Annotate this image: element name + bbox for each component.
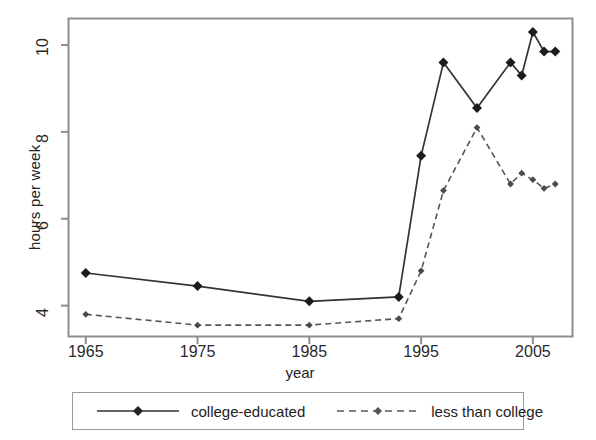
data-point-marker [306,322,313,329]
data-point-marker [550,47,560,57]
data-point-marker [416,151,426,161]
data-point-marker [541,185,548,192]
data-point-marker [518,170,525,177]
data-point-marker [517,70,527,80]
data-point-marker [194,322,201,329]
series-line-less-than-college [86,128,555,326]
data-point-marker [529,176,536,183]
legend-swatch-dashed [335,403,421,419]
x-tick-label-1965: 1965 [68,343,104,361]
plot-frame [69,19,573,337]
x-axis-title: year [285,364,314,381]
y-axis-title: hours per week [26,145,43,250]
data-point-marker [395,315,402,322]
data-point-marker [528,27,538,37]
y-tick-label-8: 8 [34,134,52,143]
y-tick-label-10: 10 [34,38,52,56]
tick-marks [61,45,533,344]
legend[interactable]: college-educated less than college [72,392,524,430]
data-point-marker [394,292,404,302]
legend-entry-college[interactable]: college-educated [95,403,305,420]
x-tick-label-1995: 1995 [403,343,439,361]
series-layer [81,27,560,329]
data-point-marker [418,267,425,274]
data-point-marker [472,103,482,113]
data-point-marker [82,311,89,318]
x-tick-label-1975: 1975 [180,343,216,361]
y-tick-label-4: 4 [34,308,52,317]
chart-figure: hours per week 10 8 6 4 1965 1975 1985 1… [0,0,596,440]
data-point-marker [552,181,559,188]
data-point-marker [474,124,481,131]
x-tick-label-1985: 1985 [292,343,328,361]
data-point-marker [304,296,314,306]
legend-entry-less-than-college[interactable]: less than college [335,403,543,420]
data-point-marker [438,57,448,67]
data-point-marker [81,268,91,278]
legend-label-less-than-college: less than college [431,403,543,420]
x-tick-label-2005: 2005 [515,343,551,361]
legend-swatch-solid [95,403,181,419]
data-point-marker [507,181,514,188]
y-tick-label-6: 6 [34,221,52,230]
data-point-marker [440,187,447,194]
data-point-marker [193,281,203,291]
series-line-college-educated [86,32,555,301]
data-point-marker [539,47,549,57]
legend-label-college: college-educated [191,403,305,420]
data-point-marker [506,57,516,67]
